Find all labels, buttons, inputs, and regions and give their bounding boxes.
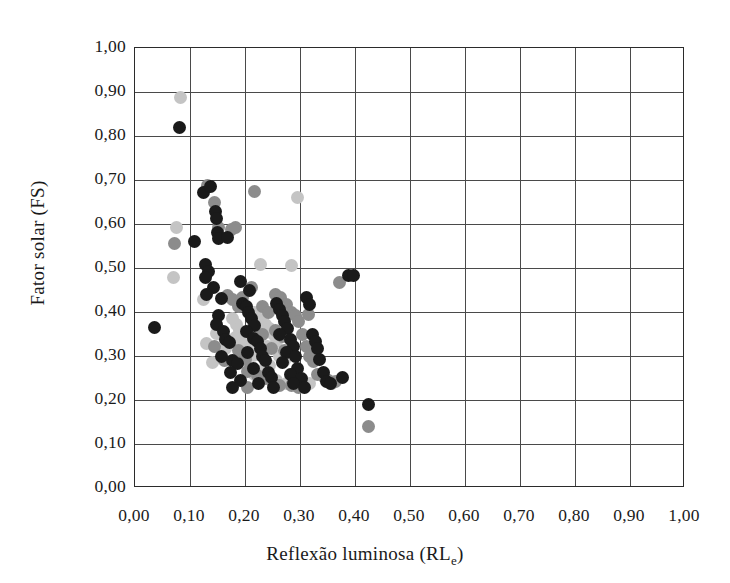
data-point [168,237,181,250]
x-tick-label: 0,10 [159,507,219,525]
y-tick-label: 0,30 [66,346,126,364]
y-tick-label: 0,90 [66,82,126,100]
data-points-layer [135,48,683,486]
x-tick-label: 0,70 [489,507,549,525]
data-point [243,284,256,297]
data-point [276,356,289,369]
data-point [248,185,261,198]
x-tick-label: 0,40 [324,507,384,525]
data-point [173,121,186,134]
x-axis-title: Reflexão luminosa (RLe) [0,543,730,569]
data-point [252,377,265,390]
x-tick-label: 0,30 [269,507,329,525]
data-point [204,180,217,193]
x-tick-label: 0,20 [214,507,274,525]
data-point [200,288,213,301]
data-point [226,381,239,394]
y-tick-label: 0,10 [66,434,126,452]
data-point [254,258,267,271]
x-axis-tick-labels: 0,000,100,200,300,400,500,600,700,800,90… [0,507,730,533]
data-point [170,221,183,234]
plot-area [134,47,684,487]
y-axis-tick-labels: 0,000,100,200,300,400,500,600,700,800,90… [56,0,126,583]
data-point [313,353,326,366]
data-point [291,191,304,204]
data-point [221,231,234,244]
y-tick-label: 0,40 [66,302,126,320]
x-tick-label: 0,80 [544,507,604,525]
y-tick-label: 0,00 [66,478,126,496]
y-tick-label: 0,50 [66,258,126,276]
data-point [362,398,375,411]
y-tick-label: 0,60 [66,214,126,232]
y-tick-label: 0,20 [66,390,126,408]
data-point [285,259,298,272]
x-axis-title-subscript: e [451,553,457,568]
x-tick-label: 0,00 [104,507,164,525]
data-point [362,420,375,433]
y-tick-label: 1,00 [66,38,126,56]
data-point [167,271,180,284]
data-point [303,298,316,311]
data-point [174,91,187,104]
data-point [267,381,280,394]
data-point [188,235,201,248]
scatter-chart: 0,000,100,200,300,400,500,600,700,800,90… [0,0,730,583]
y-axis-title: Fator solar (FS) [27,93,49,393]
x-tick-label: 1,00 [654,507,714,525]
x-tick-label: 0,60 [434,507,494,525]
y-tick-label: 0,80 [66,126,126,144]
y-tick-label: 0,70 [66,170,126,188]
data-point [336,371,349,384]
data-point [148,321,161,334]
data-point [247,362,260,375]
data-point [298,381,311,394]
x-tick-label: 0,50 [379,507,439,525]
x-tick-label: 0,90 [599,507,659,525]
data-point [324,377,337,390]
data-point [347,269,360,282]
